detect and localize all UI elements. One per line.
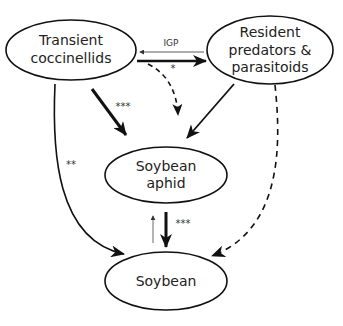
node-label: parasitoids — [231, 59, 308, 75]
node-resident-predators-parasitoids: Resident predators & parasitoids — [207, 16, 333, 84]
significance-label: ** — [66, 159, 76, 170]
food-web-diagram: Transient coccinellids Resident predator… — [0, 0, 343, 326]
node-soybean: Soybean — [105, 252, 227, 310]
node-label: predators & — [229, 42, 312, 58]
node-label: coccinellids — [31, 50, 112, 66]
node-soybean-aphid: Soybean aphid — [105, 147, 227, 203]
node-label: Transient — [38, 32, 103, 48]
node-label: Soybean — [136, 158, 197, 174]
edge-transient-to-aphid: *** — [92, 89, 131, 135]
edge-resident-to-aphid — [187, 84, 234, 138]
igp-label: IGP — [163, 38, 179, 48]
significance-label: * — [171, 63, 176, 74]
edge-aphid-to-soybean: *** — [166, 212, 191, 247]
significance-label: *** — [116, 101, 131, 112]
node-label: Soybean — [136, 273, 197, 289]
node-label: Resident — [240, 24, 301, 40]
node-label: aphid — [146, 175, 185, 191]
edge-igp: IGP — [140, 38, 204, 52]
node-transient-coccinellids: Transient coccinellids — [6, 20, 136, 80]
significance-label: *** — [176, 218, 191, 229]
edge-transient-to-resident: * — [137, 61, 206, 74]
